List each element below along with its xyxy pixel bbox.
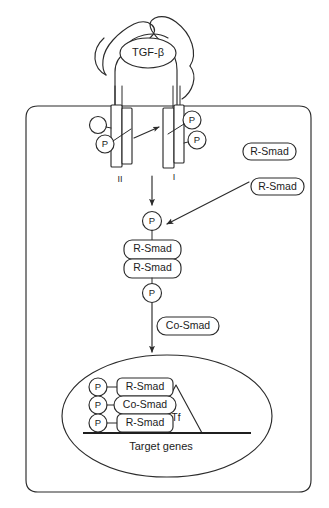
- nuclear-complex-row-1: P R-Smad: [89, 378, 173, 396]
- receptor-ii: P II: [90, 86, 133, 184]
- ligand-label: TGF-β: [132, 46, 164, 58]
- nuclear-co-smad-label: Co-Smad: [123, 398, 168, 410]
- co-smad-label: Co-Smad: [166, 319, 211, 331]
- phosphate-label: P: [102, 138, 108, 149]
- receptor-ii-label: II: [117, 174, 122, 184]
- receptor-ii-phosphate: P: [96, 135, 114, 153]
- pathway-diagram: TGF-β P II: [0, 0, 329, 508]
- smad-complex-box-1: R-Smad: [124, 240, 181, 259]
- ligand-tgf-beta: TGF-β: [120, 38, 176, 68]
- phosphate-label: P: [95, 417, 101, 428]
- phosphate-label: P: [149, 287, 155, 298]
- receptor-ii-domain-circle: [90, 117, 107, 134]
- receptor-i-phosphate-2: P: [188, 131, 206, 149]
- nuclear-complex-row-2: P Co-Smad: [89, 396, 176, 414]
- phosphate-label: P: [149, 215, 155, 226]
- cytoplasm-phospho-upper: P: [143, 212, 162, 231]
- free-r-smad-2: R-Smad: [251, 178, 304, 195]
- smad-complex-label: R-Smad: [133, 242, 172, 254]
- receptor-i-phosphate-1: P: [183, 111, 201, 129]
- nuclear-smad-label: R-Smad: [126, 416, 165, 428]
- phosphate-label: P: [189, 114, 195, 125]
- phosphate-label: P: [95, 381, 101, 392]
- receptor-i-label: I: [173, 172, 176, 182]
- nuclear-complex-row-3: P R-Smad: [89, 414, 173, 432]
- cytoplasm-phospho-lower: P: [143, 284, 162, 303]
- target-genes-label: Target genes: [129, 440, 193, 452]
- phosphate-label: P: [194, 134, 200, 145]
- receptor-i: P P I: [163, 86, 206, 182]
- r-smad-recruitment-arrow: [167, 182, 249, 224]
- receptor-transactivation-arrow: [134, 127, 159, 138]
- free-r-smad-1: R-Smad: [243, 143, 296, 160]
- co-smad-cofactor: Co-Smad: [157, 317, 219, 335]
- free-r-smad-label: R-Smad: [258, 180, 297, 192]
- pathway-canvas: TGF-β P II: [0, 0, 329, 508]
- nuclear-smad-label: R-Smad: [126, 380, 165, 392]
- free-r-smad-label: R-Smad: [250, 145, 289, 157]
- smad-complex-box-2: R-Smad: [124, 259, 181, 278]
- smad-complex-label: R-Smad: [133, 261, 172, 273]
- phosphate-label: P: [95, 399, 101, 410]
